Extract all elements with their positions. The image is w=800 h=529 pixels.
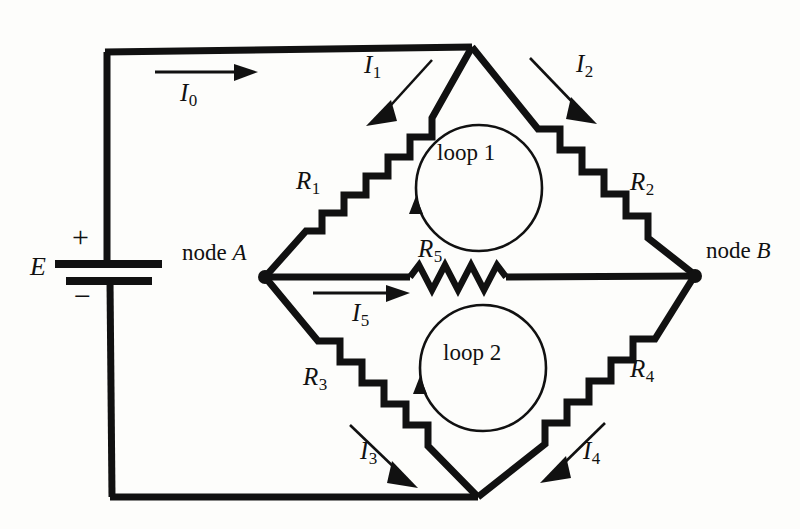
resistor-R4-label: R4 xyxy=(630,355,654,387)
current-I1-label: I1 xyxy=(364,51,381,83)
resistor-R3-subscript: 3 xyxy=(318,375,327,394)
node-A-prefix: node xyxy=(182,240,227,265)
node-B-letter: B xyxy=(756,238,770,263)
node-B-dot xyxy=(688,269,702,283)
resistor-R3-letter: R xyxy=(303,363,318,390)
current-I5-arrowhead xyxy=(386,285,410,302)
current-I2-label: I2 xyxy=(576,50,593,82)
current-I0-subscript: 0 xyxy=(188,91,197,110)
current-I3-label: I3 xyxy=(360,437,377,469)
resistor-R1-label: R1 xyxy=(296,167,320,199)
resistor-R1-letter: R xyxy=(296,167,311,194)
node-A-label: node A xyxy=(182,240,247,266)
battery-plus-sign: + xyxy=(72,222,89,252)
resistor-R5-zigzag xyxy=(410,265,506,290)
node-B-prefix: node xyxy=(706,238,751,263)
circuit-diagram-canvas: E + − node A node B R1 R2 R3 R4 R5 I0 I1… xyxy=(0,0,800,529)
current-I0-arrowhead xyxy=(234,64,258,81)
current-I3-arrowhead xyxy=(387,461,418,488)
current-I1-subscript: 1 xyxy=(372,63,381,82)
current-I5-label: I5 xyxy=(352,299,369,331)
current-I4-label: I4 xyxy=(583,437,600,469)
battery-minus-sign: − xyxy=(74,281,91,311)
wire-bridge-right xyxy=(506,276,697,277)
wire-left-lower xyxy=(110,281,112,497)
current-I5-subscript: 5 xyxy=(360,311,369,330)
resistor-R2-letter: R xyxy=(630,168,645,195)
loop-1-direction-arrowhead xyxy=(409,196,423,214)
resistor-R4-subscript: 4 xyxy=(645,367,654,386)
node-B-label: node B xyxy=(706,238,771,264)
current-I4-subscript: 4 xyxy=(591,449,600,468)
current-I2-arrowhead xyxy=(566,97,597,124)
current-I0-label: I0 xyxy=(180,79,197,111)
loop-2-direction-arrowhead xyxy=(413,376,427,394)
resistor-R5-letter: R xyxy=(418,235,433,262)
loop-2-label: loop 2 xyxy=(443,340,501,366)
node-A-dot xyxy=(258,270,272,284)
loop-1-label: loop 1 xyxy=(437,140,495,166)
resistor-R2-label: R2 xyxy=(630,168,654,200)
current-I3-subscript: 3 xyxy=(368,449,377,468)
resistor-R3-label: R3 xyxy=(303,363,327,395)
resistor-R5-label: R5 xyxy=(418,235,442,267)
current-I4-arrowhead xyxy=(540,456,571,483)
resistor-R5-subscript: 5 xyxy=(433,247,442,266)
node-A-letter: A xyxy=(232,240,246,265)
circuit-schematic-svg xyxy=(0,0,800,529)
current-I2-subscript: 2 xyxy=(584,62,593,81)
wire-top xyxy=(105,47,472,52)
loop-2-circle xyxy=(420,305,546,431)
resistor-R2-subscript: 2 xyxy=(645,180,654,199)
resistor-R1-subscript: 1 xyxy=(311,179,320,198)
source-label-E: E xyxy=(30,252,46,282)
resistor-R4-letter: R xyxy=(630,355,645,382)
